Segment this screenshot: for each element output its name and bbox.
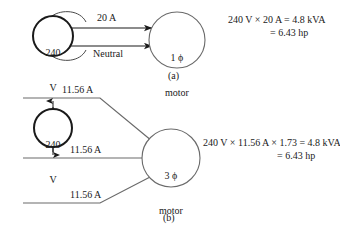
part-a-motor-word: motor [152,87,202,99]
part-b-equation-line-2: = 6.43 hp [277,150,315,162]
part-b-caption: (b) [163,212,175,224]
part-b-current-label-3: 11.56 A [70,189,101,201]
part-a-current-label: 20 A [97,12,116,24]
part-a-caption: (a) [168,70,179,82]
part-a-equation-line-1: 240 V × 20 A = 4.8 kVA [228,14,325,26]
part-b-source-unit: V [34,174,72,186]
part-b-motor-phase: 3 ϕ [146,170,196,182]
part-a-source-value: 240 [33,47,73,59]
part-b-source-value: 240 [34,139,72,151]
part-b-source-label: 240 V [34,115,72,209]
part-b-current-label-2: 11.56 A [70,144,101,156]
part-a-motor-phase: 1 ϕ [152,52,202,64]
part-b-equation-line-1: 240 V × 11.56 A × 1.73 = 4.8 kVA [203,137,340,149]
part-a-source-label: 240 V [33,23,73,117]
part-a-equation-line-2: = 6.43 hp [270,27,308,39]
figure-single-vs-three-phase-motor: 240 V 20 A Neutral 1 ϕ motor 240 V × 20 … [0,0,340,235]
part-a-neutral-label: Neutral [93,48,123,60]
part-b-current-label-1: 11.56 A [62,84,93,96]
